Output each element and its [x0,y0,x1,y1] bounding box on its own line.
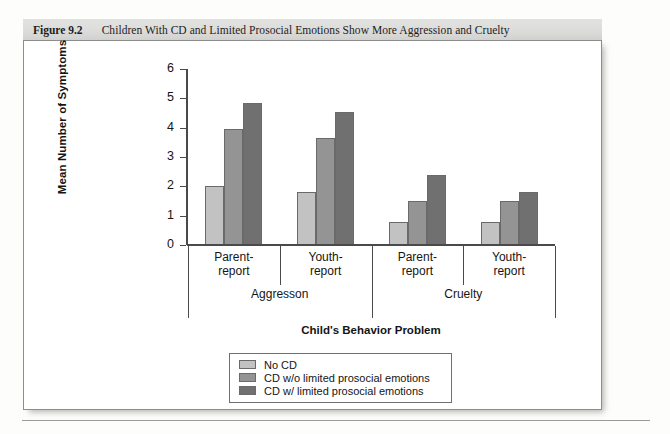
category-label: Youth-report [280,250,372,278]
bar [481,222,500,245]
group-label: Cruelty [403,287,523,301]
legend: No CDCD w/o limited prosocial emotionsCD… [229,353,452,403]
category-label-line: Parent- [214,250,253,264]
figure-panel: Mean Number of Symptoms 0123456 Parent-r… [23,40,602,410]
category-label: Youth-report [463,250,555,278]
legend-label: No CD [256,359,297,371]
figure-caption-bar: Figure 9.2 Children With CD and Limited … [23,19,602,40]
group-label: Aggresson [220,287,340,301]
bar [500,201,519,245]
bar [389,222,408,245]
bar [243,103,262,245]
bar [427,175,446,245]
legend-item: CD w/o limited prosocial emotions [230,371,451,384]
legend-swatch [239,360,256,369]
legend-item: No CD [230,358,451,371]
legend-item: CD w/ limited prosocial emotions [230,384,451,397]
category-label-line: report [310,264,341,278]
bar [205,186,224,245]
category-label-line: Youth- [492,250,526,264]
legend-swatch [239,373,256,382]
x-axis-title: Child's Behavior Problem [187,324,555,336]
figure-title: Children With CD and Limited Prosocial E… [83,24,510,36]
page-rule [22,420,650,421]
category-label-line: Parent- [398,250,437,264]
category-label: Parent-report [188,250,280,278]
legend-swatch [239,386,256,395]
category-label-line: report [218,264,249,278]
category-label-line: Youth- [308,250,342,264]
legend-label: CD w/o limited prosocial emotions [256,372,430,384]
bar [408,201,427,245]
figure-number: Figure 9.2 [23,24,83,36]
category-label: Parent-report [372,250,464,278]
bar [335,112,354,245]
legend-label: CD w/ limited prosocial emotions [256,385,424,397]
category-label-line: report [402,264,433,278]
bar [224,129,243,245]
bar [519,192,538,245]
bar [316,138,335,245]
bar-chart: Mean Number of Symptoms 0123456 Parent-r… [24,41,603,411]
x-axis-outer-divider [555,246,556,318]
bar [297,192,316,245]
category-label-line: report [493,264,524,278]
